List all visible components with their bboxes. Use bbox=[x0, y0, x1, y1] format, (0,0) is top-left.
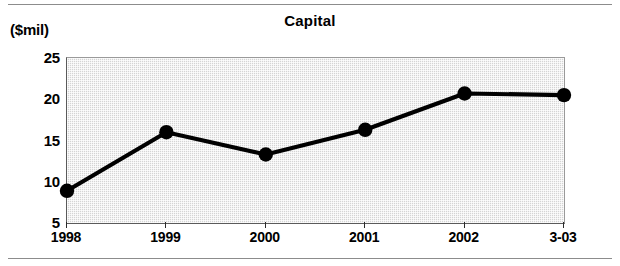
x-tick-label-2001: 2001 bbox=[319, 230, 409, 244]
y-tick-label: 25 bbox=[16, 50, 60, 65]
data-point-1998 bbox=[60, 184, 74, 198]
chart-figure: ($mil) Capital 510152025 199819992000200… bbox=[0, 0, 620, 266]
y-tick-label: 15 bbox=[16, 133, 60, 148]
page-rule-bottom bbox=[8, 258, 612, 259]
x-tick-mark bbox=[364, 222, 365, 228]
x-tick-label-2002: 2002 bbox=[419, 230, 509, 244]
x-tick-label-1998: 1998 bbox=[21, 230, 111, 244]
data-point-2002 bbox=[457, 86, 471, 100]
x-tick-mark bbox=[165, 222, 166, 228]
x-tick-mark bbox=[464, 222, 465, 228]
y-tick-label: 10 bbox=[16, 174, 60, 189]
y-axis: 510152025 bbox=[8, 0, 60, 266]
chart-title: Capital bbox=[0, 13, 620, 28]
x-tick-mark bbox=[265, 222, 266, 228]
x-tick-label-3-03: 3-03 bbox=[518, 230, 608, 244]
data-point-3-03 bbox=[557, 88, 571, 102]
y-tick-label: 5 bbox=[16, 215, 60, 230]
data-point-1999 bbox=[159, 125, 173, 139]
data-point-2000 bbox=[259, 147, 273, 161]
page-rule-top bbox=[8, 4, 612, 5]
y-tick-label: 20 bbox=[16, 91, 60, 106]
x-tick-mark bbox=[563, 222, 564, 228]
plot-area bbox=[66, 57, 565, 224]
data-point-2001 bbox=[358, 123, 372, 137]
x-tick-label-1999: 1999 bbox=[120, 230, 210, 244]
series-line-capital bbox=[67, 94, 564, 191]
x-tick-label-2000: 2000 bbox=[220, 230, 310, 244]
line-series-svg bbox=[67, 58, 564, 223]
x-tick-mark bbox=[66, 222, 67, 228]
